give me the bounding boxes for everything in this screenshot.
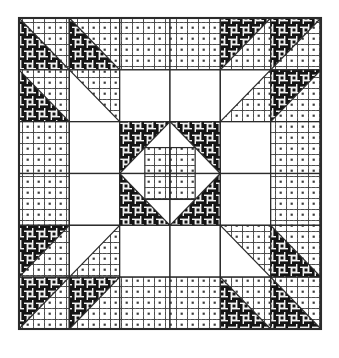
quilt-cell-r1-c4 <box>170 18 220 70</box>
quilt-cell-r2-c6 <box>271 70 321 122</box>
quilt-cell-r5-c5 <box>220 225 270 277</box>
quilt-cell-r1-c2 <box>69 18 119 70</box>
patch-solid-light <box>271 122 321 174</box>
quilt-cell-r2-c3 <box>120 70 170 122</box>
quilt-cell-r1-c1 <box>19 18 69 70</box>
patch-solid-light <box>19 174 69 226</box>
patch-solid-plain <box>120 70 170 122</box>
patch-solid-light <box>120 18 170 70</box>
quilt-cell-r4-c2 <box>69 174 119 226</box>
quilt-cell-r3-c5 <box>220 122 270 174</box>
quilt-cell-r4-c5 <box>220 174 270 226</box>
quilt-cell-r3-c2 <box>69 122 119 174</box>
quilt-cell-r1-c3 <box>120 18 170 70</box>
quilt-cell-r5-c6 <box>271 225 321 277</box>
quilt-cell-r2-c5 <box>220 70 270 122</box>
quilt-cell-r3-c4 <box>170 122 220 174</box>
quilt-cell-r6-c6 <box>271 277 321 329</box>
quilt-cell-r4-c1 <box>19 174 69 226</box>
quilt-cell-r1-c6 <box>271 18 321 70</box>
quilt-cell-r1-c5 <box>220 18 270 70</box>
quilt-cell-r5-c1 <box>19 225 69 277</box>
quilt-cell-r6-c1 <box>19 277 69 329</box>
patch-solid-light <box>170 277 220 329</box>
patch-solid-plain <box>170 70 220 122</box>
quilt-cell-r6-c2 <box>69 277 119 329</box>
quilt-cell-r4-c3 <box>120 174 170 226</box>
quilt-cell-r2-c4 <box>170 70 220 122</box>
patch-solid-plain <box>69 174 119 226</box>
quilt-cell-r3-c3 <box>120 122 170 174</box>
patch-medallion-light-center <box>145 174 170 200</box>
patch-solid-plain <box>120 225 170 277</box>
patch-medallion-light-center <box>170 174 195 200</box>
patch-solid-light <box>19 122 69 174</box>
quilt-cell-r3-c1 <box>19 122 69 174</box>
patch-solid-plain <box>220 174 270 226</box>
patch-solid-plain <box>170 225 220 277</box>
quilt-cell-r4-c6 <box>271 174 321 226</box>
patch-medallion-light-center <box>170 148 195 174</box>
quilt-cell-r5-c4 <box>170 225 220 277</box>
quilt-cell-r3-c6 <box>271 122 321 174</box>
quilt-block-figure <box>0 0 339 358</box>
patch-solid-plain <box>69 122 119 174</box>
quilt-cell-r2-c2 <box>69 70 119 122</box>
patch-solid-plain <box>220 122 270 174</box>
quilt-cell-r4-c4 <box>170 174 220 226</box>
quilt-cell-r2-c1 <box>19 70 69 122</box>
quilt-cell-r6-c5 <box>220 277 270 329</box>
patch-solid-light <box>271 174 321 226</box>
quilt-cell-r6-c3 <box>120 277 170 329</box>
patch-solid-light <box>120 277 170 329</box>
quilt-block-root <box>19 18 321 329</box>
patch-solid-light <box>170 18 220 70</box>
quilt-cell-r5-c2 <box>69 225 119 277</box>
quilt-cell-r6-c4 <box>170 277 220 329</box>
quilt-block-canvas <box>0 0 339 358</box>
quilt-cell-r5-c3 <box>120 225 170 277</box>
patch-medallion-light-center <box>145 148 170 174</box>
